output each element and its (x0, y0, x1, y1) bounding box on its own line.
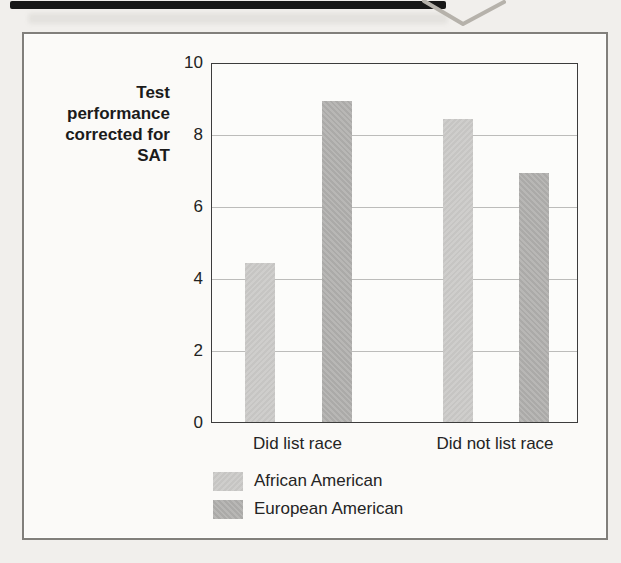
y-tick-label-6: 6 (159, 197, 203, 217)
y-axis-title-line: corrected for (50, 124, 170, 145)
legend-label: African American (254, 471, 383, 491)
legend-swatch-icon (213, 500, 243, 519)
legend-label: European American (254, 499, 403, 519)
legend-swatch-icon (213, 472, 243, 491)
y-tick-label-0: 0 (159, 413, 203, 433)
y-axis-title-line: performance (50, 103, 170, 124)
bar-african-american-group1 (245, 263, 275, 422)
gridline-8 (212, 135, 577, 136)
scanned-page: Testperformancecorrected forSAT 0246810 … (0, 0, 621, 563)
y-axis-title-line: SAT (50, 145, 170, 166)
y-tick-label-8: 8 (159, 125, 203, 145)
y-axis-title: Testperformancecorrected forSAT (50, 82, 170, 166)
bar-european-american-group1 (322, 101, 352, 422)
y-tick-label-4: 4 (159, 269, 203, 289)
y-tick-label-2: 2 (159, 341, 203, 361)
y-axis-title-line: Test (50, 82, 170, 103)
bar-chart-plot-area (211, 63, 578, 423)
scan-artifact-black-strip (10, 1, 446, 9)
checkmark-watermark-icon (412, 0, 516, 30)
y-tick-label-10: 10 (159, 53, 203, 73)
legend-item-african-american: African American (213, 471, 383, 491)
figure-frame: Testperformancecorrected forSAT 0246810 … (22, 32, 608, 540)
x-category-label-1: Did list race (213, 434, 383, 454)
scan-artifact-print-smudge (28, 13, 448, 24)
bar-african-american-group2 (443, 119, 473, 422)
bar-european-american-group2 (519, 173, 549, 422)
legend-item-european-american: European American (213, 499, 403, 519)
x-category-label-2: Did not list race (410, 434, 580, 454)
